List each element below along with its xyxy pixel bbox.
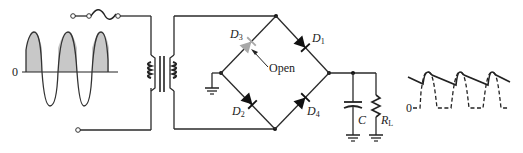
secondary-wiring [174, 16, 276, 129]
output-zero-label: 0 [406, 101, 412, 115]
label-d4: D4 [307, 104, 320, 119]
fuse-icon [91, 10, 116, 20]
rectifier-circuit-diagram: 0 [0, 0, 523, 153]
output-filter [329, 71, 383, 141]
label-d2: D2 [232, 104, 245, 119]
arrow-icon [251, 49, 258, 55]
ground-icon [205, 73, 221, 94]
label-d1: D1 [312, 31, 325, 46]
output-waveform: 0 [406, 72, 510, 115]
resistor-icon [369, 73, 383, 141]
open-annotation: Open [269, 61, 295, 76]
primary-wiring [71, 10, 151, 133]
label-resistor: RL [381, 113, 393, 128]
label-capacitor: C [358, 113, 366, 128]
input-zero-label: 0 [12, 65, 18, 79]
transformer-icon [148, 16, 176, 129]
label-d3: D3 [230, 27, 243, 42]
input-waveform: 0 [12, 32, 118, 106]
capacitor-icon [344, 73, 362, 141]
